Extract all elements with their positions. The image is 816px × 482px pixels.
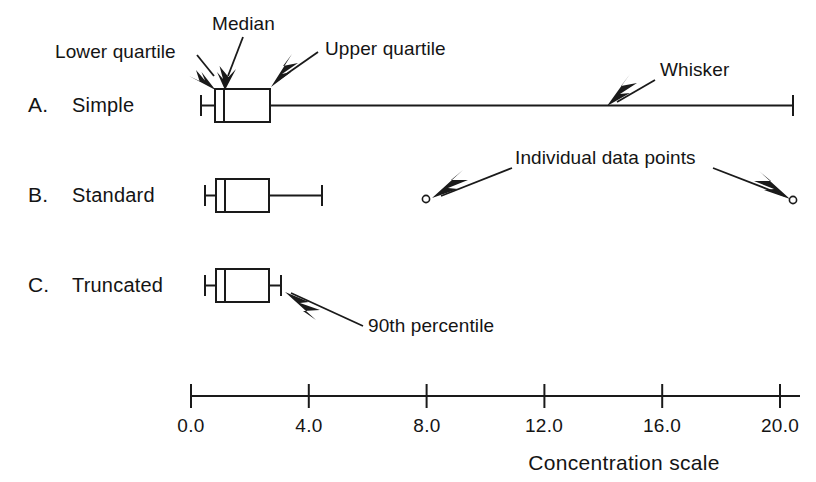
arrowhead-upper-quartile	[271, 54, 298, 87]
axis-tick-label-4: 4.0	[295, 416, 322, 435]
row-letter-a: A.	[28, 94, 48, 115]
arrowhead-data-points-right	[754, 171, 790, 199]
leader-ninetieth-percentile	[291, 293, 363, 326]
annotation-ninetieth-percentile: 90th percentile	[368, 316, 494, 335]
box-c	[216, 269, 269, 302]
arrowhead-median	[217, 66, 236, 90]
arrowhead-ninetieth-percentile	[285, 292, 320, 320]
annotation-lower-quartile: Lower quartile	[55, 42, 176, 61]
leader-lower-quartile	[197, 55, 214, 76]
arrowhead-data-points-left	[432, 170, 468, 198]
boxplot-row-b	[205, 179, 797, 212]
row-letter-b: B.	[28, 184, 48, 205]
boxplot-row-c	[205, 269, 281, 302]
annotation-individual-data-points: Individual data points	[515, 148, 696, 167]
data-point-outlier-high-b	[789, 196, 796, 203]
annotation-arrowheads	[189, 54, 790, 320]
row-letter-c: C.	[28, 274, 49, 295]
concentration-axis	[191, 384, 800, 408]
boxplot-row-a	[201, 89, 793, 122]
data-point-outlier-low-b	[422, 195, 429, 202]
axis-tick-label-8: 8.0	[413, 416, 440, 435]
axis-tick-label-16: 16.0	[643, 416, 681, 435]
axis-tick-label-20: 20.0	[761, 416, 799, 435]
annotation-upper-quartile: Upper quartile	[325, 39, 446, 58]
axis-title: Concentration scale	[528, 452, 719, 473]
arrowhead-whisker	[607, 74, 637, 106]
row-name-a: Simple	[72, 95, 134, 115]
boxplot-figure: A. Simple B. Standard C. Truncated Lower…	[0, 0, 816, 482]
axis-tick-label-0: 0.0	[177, 416, 204, 435]
annotation-leaders	[197, 37, 785, 326]
box-b	[216, 179, 269, 212]
annotation-median: Median	[212, 14, 275, 33]
axis-tick-label-12: 12.0	[525, 416, 563, 435]
row-name-c: Truncated	[72, 275, 163, 295]
leader-median	[228, 37, 243, 76]
annotation-whisker: Whisker	[660, 60, 729, 79]
row-name-b: Standard	[72, 185, 155, 205]
